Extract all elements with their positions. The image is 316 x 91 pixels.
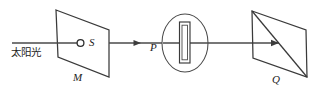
label-screen-q: Q	[272, 74, 280, 85]
label-element-p: P	[150, 42, 157, 53]
element-p-group	[162, 14, 208, 72]
slit-inner-rect	[182, 25, 188, 60]
arrow-m-to-p-head	[134, 40, 142, 46]
optics-diagram: 太阳光 S M P Q	[0, 0, 316, 91]
label-pinhole-s: S	[89, 37, 95, 48]
label-sunlight: 太阳光	[11, 47, 42, 58]
screen-q-group	[252, 11, 307, 77]
label-screen-m: M	[73, 72, 82, 83]
pinhole-s-circle	[77, 40, 84, 47]
diagram-canvas	[0, 0, 316, 91]
